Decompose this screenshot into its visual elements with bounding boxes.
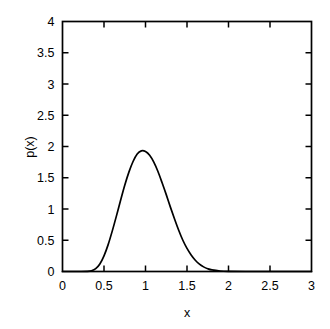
x-tick-label: 2 [225, 279, 232, 293]
y-tick-label: 4 [48, 15, 55, 29]
x-tick-label: 2.5 [261, 279, 278, 293]
x-tick-label: 1 [142, 279, 149, 293]
y-tick-label: 1.5 [37, 171, 54, 185]
y-tick-label: 2 [48, 140, 55, 154]
density-plot: 00.511.522.53 00.511.522.533.54 x p(x) [0, 0, 330, 329]
y-tick-label: 0.5 [37, 234, 54, 248]
x-tick-label: 3 [308, 279, 315, 293]
x-tick-label: 0.5 [95, 279, 112, 293]
chart-page: 00.511.522.53 00.511.522.533.54 x p(x) [0, 0, 330, 329]
y-tick-label: 2.5 [37, 109, 54, 123]
x-tick-label: 0 [59, 279, 66, 293]
y-tick-label: 0 [48, 265, 55, 279]
x-axis-title: x [184, 306, 191, 320]
x-tick-labels: 00.511.522.53 [59, 279, 315, 293]
y-tick-label: 3.5 [37, 46, 54, 60]
y-tick-label: 3 [48, 78, 55, 92]
x-tick-label: 1.5 [178, 279, 195, 293]
y-axis-title: p(x) [23, 136, 37, 158]
y-tick-label: 1 [48, 203, 55, 217]
